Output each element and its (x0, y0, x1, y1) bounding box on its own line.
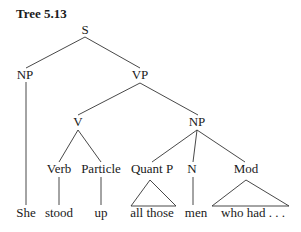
triangle-quantp (131, 180, 176, 206)
tree-edges (0, 0, 301, 232)
leaf-stood: stood (45, 206, 73, 220)
edge-v-verb (59, 130, 78, 162)
node-s: S (81, 23, 88, 37)
node-vp: VP (132, 68, 149, 82)
edge-np-n (193, 130, 197, 162)
node-np-subject: NP (17, 68, 34, 82)
node-particle: Particle (81, 162, 121, 176)
node-v: V (73, 115, 82, 129)
node-np-object: NP (189, 115, 206, 129)
edge-s-np (26, 37, 85, 68)
edge-vp-v (78, 83, 140, 115)
leaf-all-those: all those (130, 206, 174, 220)
node-mod: Mod (234, 162, 259, 176)
node-verb: Verb (47, 162, 72, 176)
leaf-she: She (16, 206, 36, 220)
leaf-who-had: who had . . . (221, 206, 285, 220)
leaf-up: up (95, 206, 108, 220)
edge-np-mod (197, 130, 245, 162)
edge-np-quantp (152, 130, 197, 162)
node-n: N (187, 162, 196, 176)
triangle-mod (212, 180, 289, 206)
edge-s-vp (85, 37, 140, 68)
node-quantp: Quant P (131, 162, 173, 176)
edge-v-particle (78, 130, 101, 162)
leaf-men: men (185, 206, 207, 220)
edge-vp-np (140, 83, 198, 115)
